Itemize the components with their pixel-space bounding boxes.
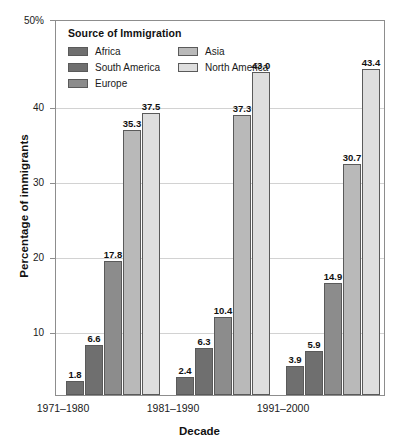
x-axis-title: Decade (0, 425, 399, 437)
bar-south-america-1981-1990[interactable] (195, 348, 213, 395)
bar-africa-1991-2000[interactable] (286, 366, 304, 395)
x-tick-label-1991-2000: 1991–2000 (228, 402, 338, 414)
bar-europe-1971-1980[interactable] (104, 261, 122, 395)
bar-group-1971-1980: 1.8 6.6 17.8 35.3 37.5 (64, 19, 168, 395)
bar-label-north-america-1991-2000: 43.4 (358, 58, 384, 68)
y-tick-label-50: 50% (0, 16, 44, 26)
bar-north-america-1981-1990[interactable] (252, 72, 270, 395)
bar-label-south-america-1991-2000: 5.9 (302, 340, 326, 350)
bar-africa-1971-1980[interactable] (66, 381, 84, 395)
plot-area: Source of Immigration Africa South Ameri… (55, 20, 385, 396)
bar-label-south-america-1971-1980: 6.6 (82, 334, 106, 344)
bar-asia-1971-1980[interactable] (123, 130, 141, 395)
bar-south-america-1971-1980[interactable] (85, 345, 103, 395)
bar-group-1981-1990: 2.4 6.3 10.4 37.3 43.0 (174, 19, 278, 395)
bar-africa-1981-1990[interactable] (176, 377, 194, 395)
x-tick-label-1981-1990: 1981–1990 (118, 402, 228, 414)
bar-group-1991-2000: 3.9 5.9 14.9 30.7 43.4 (284, 19, 388, 395)
bar-europe-1991-2000[interactable] (324, 283, 342, 395)
bar-label-north-america-1981-1990: 43.0 (248, 61, 274, 71)
y-axis-title: Percentage of immigrants (18, 96, 30, 316)
bar-label-africa-1971-1980: 1.8 (63, 370, 87, 380)
bar-north-america-1971-1980[interactable] (142, 113, 160, 395)
bar-south-america-1991-2000[interactable] (305, 351, 323, 395)
bar-label-south-america-1981-1990: 6.3 (192, 337, 216, 347)
bar-label-africa-1991-2000: 3.9 (283, 355, 307, 365)
bar-chart: 50% 40 30 20 10 Percentage of immigrants… (0, 0, 399, 446)
y-tick-label-10: 10 (0, 328, 44, 338)
x-tick-label-1971-1980: 1971–1980 (8, 402, 118, 414)
bar-asia-1991-2000[interactable] (343, 164, 361, 395)
bar-europe-1981-1990[interactable] (214, 317, 232, 395)
bar-asia-1981-1990[interactable] (233, 115, 251, 395)
bar-north-america-1991-2000[interactable] (362, 69, 380, 395)
bar-label-north-america-1971-1980: 37.5 (138, 102, 164, 112)
bar-label-africa-1981-1990: 2.4 (173, 366, 197, 376)
